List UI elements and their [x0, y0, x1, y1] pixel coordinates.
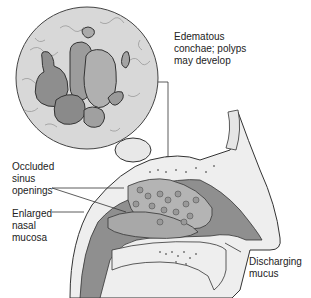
label-mucus-line1: Discharging — [249, 256, 302, 268]
label-polyps-line3: may develop — [174, 55, 246, 67]
label-mucus-line2: mucus — [249, 268, 302, 280]
leader-polyps — [158, 82, 168, 160]
label-sinus-line2: sinus — [12, 173, 54, 185]
label-polyps-line1: Edematous — [174, 31, 246, 43]
label-polyps: Edematous conchae; polyps may develop — [174, 31, 246, 67]
label-sinus: Occluded sinus openings — [12, 161, 54, 197]
label-polyps-line2: conchae; polyps — [174, 43, 246, 55]
label-mucosa-line3: mucosa — [12, 232, 52, 244]
label-mucosa: Enlarged nasal mucosa — [12, 208, 52, 244]
label-mucosa-line1: Enlarged — [12, 208, 52, 220]
diagram-canvas — [0, 0, 311, 298]
label-sinus-line1: Occluded — [12, 161, 54, 173]
label-sinus-line3: openings — [12, 185, 54, 197]
label-mucosa-line2: nasal — [12, 220, 52, 232]
label-mucus: Discharging mucus — [249, 256, 302, 280]
sinus — [115, 138, 151, 162]
magnified-inset — [16, 7, 158, 149]
